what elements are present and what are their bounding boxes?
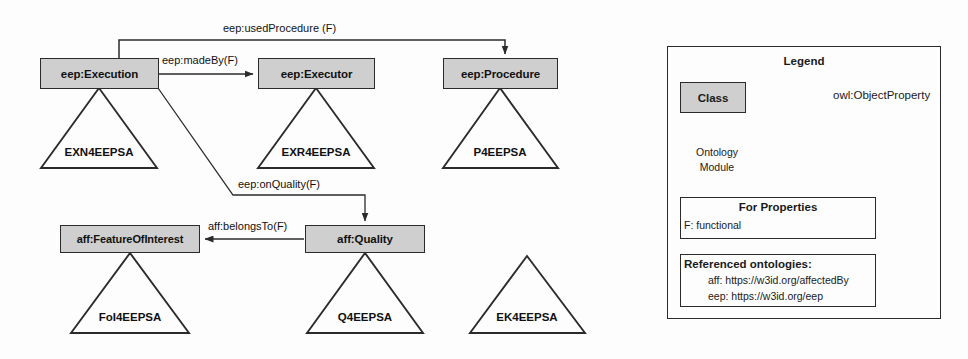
- module-label-exr: EXR4EEPSA: [266, 146, 366, 158]
- legend-references-title: Referenced ontologies:: [684, 258, 812, 270]
- legend-module-label-line1: Ontology: [682, 146, 752, 158]
- module-label-foi: FoI4EEPSA: [80, 311, 180, 323]
- module-label-q: Q4EEPSA: [324, 311, 406, 323]
- class-box-procedure[interactable]: eep:Procedure: [443, 58, 558, 89]
- legend-properties-title: For Properties: [680, 201, 876, 213]
- class-box-execution[interactable]: eep:Execution: [40, 58, 159, 89]
- legend-class-sample: Class: [680, 82, 746, 113]
- edge-label-belongsto: aff:belongsTo(F): [206, 220, 289, 232]
- class-box-featureofinterest[interactable]: aff:FeatureOfInterest: [60, 225, 200, 253]
- legend-references-line-1: eep: https://w3id.org/eep: [708, 290, 823, 302]
- class-box-quality[interactable]: aff:Quality: [305, 225, 425, 253]
- edge-label-madeby: eep:madeBy(F): [160, 54, 240, 66]
- legend-objectproperty-label: owl:ObjectProperty: [833, 89, 930, 101]
- legend-module-label-line2: Module: [682, 161, 752, 173]
- legend-title: Legend: [667, 55, 941, 67]
- class-box-executor[interactable]: eep:Executor: [258, 58, 375, 89]
- edge-label-usedprocedure: eep:usedProcedure (F): [221, 22, 338, 34]
- edge-label-onquality: eep:onQuality(F): [236, 178, 322, 190]
- module-label-ek: EK4EEPSA: [486, 311, 568, 323]
- legend-properties-line-0: F: functional: [684, 219, 741, 231]
- module-label-exn: EXN4EEPSA: [49, 146, 149, 158]
- module-label-p: P4EEPSA: [459, 146, 541, 158]
- legend-references-line-0: aff: https://w3id.org/affectedBy: [708, 274, 849, 286]
- diagram-canvas: eep:Execution eep:Executor eep:Procedure…: [0, 0, 968, 359]
